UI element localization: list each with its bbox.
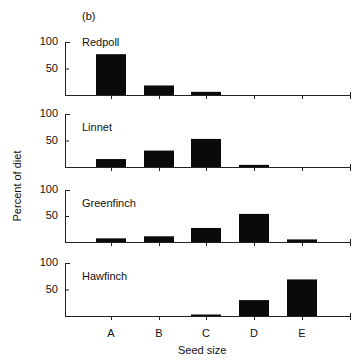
- bar-redpoll-a: [96, 54, 126, 95]
- bar-linnet-b: [144, 151, 174, 167]
- bar-greenfinch-d: [239, 214, 269, 242]
- x-tick-label-b: B: [149, 327, 169, 339]
- bar-redpoll-c: [191, 92, 221, 95]
- y-tick-label-50: 50: [28, 62, 58, 74]
- panel-label-linnet: Linnet: [82, 121, 112, 133]
- y-tick-label-50: 50: [28, 283, 58, 295]
- x-axis-label: Seed size: [178, 344, 226, 356]
- bar-greenfinch-a: [96, 238, 126, 242]
- bar-linnet-d: [239, 165, 269, 167]
- bar-greenfinch-c: [191, 228, 221, 242]
- bar-greenfinch-e: [287, 239, 317, 242]
- x-tick-label-c: C: [196, 327, 216, 339]
- x-tick-label-a: A: [101, 327, 121, 339]
- bar-linnet-c: [191, 139, 221, 167]
- panel-label-redpoll: Redpoll: [82, 36, 119, 48]
- panel-label-hawfinch: Hawfinch: [82, 270, 127, 282]
- y-tick-label-100: 100: [28, 183, 58, 195]
- plot-area: [0, 0, 364, 363]
- bar-greenfinch-b: [144, 236, 174, 242]
- x-tick-label-d: D: [244, 327, 264, 339]
- bar-hawfinch-d: [239, 300, 269, 316]
- bar-hawfinch-e: [287, 279, 317, 316]
- bar-linnet-a: [96, 159, 126, 167]
- x-tick-label-e: E: [292, 327, 312, 339]
- y-tick-label-100: 100: [28, 256, 58, 268]
- bar-redpoll-b: [144, 85, 174, 95]
- y-tick-label-100: 100: [28, 107, 58, 119]
- y-tick-label-50: 50: [28, 134, 58, 146]
- bar-hawfinch-c: [191, 315, 221, 317]
- y-tick-label-100: 100: [28, 35, 58, 47]
- panel-label-greenfinch: Greenfinch: [82, 197, 136, 209]
- y-tick-label-50: 50: [28, 209, 58, 221]
